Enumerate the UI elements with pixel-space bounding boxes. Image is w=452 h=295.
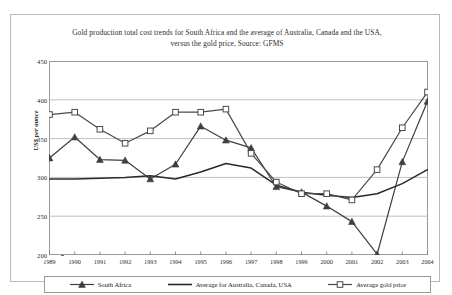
legend-item[interactable]: Average gold price xyxy=(327,280,406,289)
x-axis-tick-label: 1992 xyxy=(119,258,131,265)
chart-title: Gold production total cost trends for So… xyxy=(33,27,421,49)
x-axis-tick-label: 2002 xyxy=(371,258,383,265)
open-square-marker-icon xyxy=(122,140,128,146)
chart-series-3 xyxy=(49,89,428,202)
chart-legend: South AfricaAverage for Australia, Canad… xyxy=(44,276,431,293)
x-axis-tick-label: 2004 xyxy=(421,258,433,265)
filled-triangle-marker-icon xyxy=(223,137,230,143)
x-axis-tick-label: 1990 xyxy=(69,258,81,265)
open-square-marker-icon xyxy=(327,280,353,289)
y-axis-tick-label: 250 xyxy=(37,213,47,220)
y-axis-tick-labels: 450400350300250200 xyxy=(25,61,47,255)
filled-triangle-marker-icon xyxy=(172,161,179,167)
chart-series-canvas xyxy=(49,61,428,255)
y-axis-tick-label: 400 xyxy=(37,96,47,103)
legend-item-label: Average for Australia, Canada, USA xyxy=(196,281,292,288)
x-axis-tick-label: 2001 xyxy=(346,258,358,265)
figure-frame: Gold production total cost trends for So… xyxy=(10,14,440,282)
x-axis-tick-label: 2000 xyxy=(321,258,333,265)
filled-triangle-marker-icon xyxy=(323,203,330,209)
filled-triangle-marker-icon xyxy=(69,280,95,289)
x-axis-tick-label: 2003 xyxy=(396,258,408,265)
x-axis-tick-label: 1995 xyxy=(195,258,207,265)
plain-line-icon xyxy=(167,280,193,289)
open-square-marker-icon xyxy=(274,179,280,185)
x-axis-tick-label: 1996 xyxy=(220,258,232,265)
open-square-marker-icon xyxy=(299,191,305,197)
y-axis-tickmark xyxy=(61,255,64,256)
filled-triangle-marker-icon xyxy=(197,123,204,129)
filled-triangle-marker-icon xyxy=(349,218,356,224)
x-axis-tick-label: 1998 xyxy=(270,258,282,265)
x-axis-tick-labels: 1989199019911992199319941995199619971998… xyxy=(49,258,428,270)
open-square-marker-icon xyxy=(324,191,330,197)
open-square-marker-icon xyxy=(349,197,355,203)
open-square-marker-icon xyxy=(198,109,204,115)
y-axis-tick-label: 450 xyxy=(37,58,47,65)
x-axis-tick-label: 1993 xyxy=(144,258,156,265)
series-line xyxy=(50,92,428,200)
open-square-marker-icon xyxy=(374,167,380,173)
plot-wrap xyxy=(49,61,428,255)
x-axis-tick-label: 1991 xyxy=(94,258,106,265)
x-axis-tick-label: 1989 xyxy=(43,258,55,265)
open-square-marker-icon xyxy=(223,106,229,112)
x-axis-tick-label: 1997 xyxy=(245,258,257,265)
open-square-marker-icon xyxy=(400,125,406,131)
filled-triangle-marker-icon xyxy=(424,98,428,104)
chart-series-2 xyxy=(50,163,428,197)
legend-item[interactable]: South Africa xyxy=(69,280,132,289)
open-square-marker-icon xyxy=(337,282,343,288)
y-axis-tick-label: 300 xyxy=(37,174,47,181)
open-square-marker-icon xyxy=(148,128,154,134)
legend-item-label: Average gold price xyxy=(356,281,406,288)
series-line xyxy=(50,163,428,197)
x-axis-tick-label: 1994 xyxy=(169,258,181,265)
open-square-marker-icon xyxy=(72,109,78,115)
filled-triangle-marker-icon xyxy=(399,158,406,164)
legend-item-label: South Africa xyxy=(98,281,132,288)
open-square-marker-icon xyxy=(248,151,254,157)
chart-title-line-1: Gold production total cost trends for So… xyxy=(33,27,421,38)
chart-title-line-2: versus the gold price, Source: GFMS xyxy=(33,38,421,49)
open-square-marker-icon xyxy=(425,89,428,95)
open-square-marker-icon xyxy=(49,112,52,118)
open-square-marker-icon xyxy=(173,109,179,115)
filled-triangle-marker-icon xyxy=(71,134,78,140)
open-square-marker-icon xyxy=(97,126,103,132)
legend-item[interactable]: Average for Australia, Canada, USA xyxy=(167,280,292,289)
y-axis-tick-label: 350 xyxy=(37,135,47,142)
x-axis-tick-label: 1999 xyxy=(295,258,307,265)
